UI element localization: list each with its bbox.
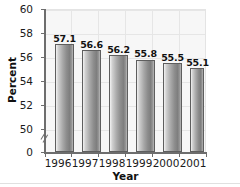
y-axis-title: Percent	[6, 40, 18, 120]
bar-value-label-1999: 55.8	[131, 48, 160, 59]
y-tick-mark-60	[41, 9, 45, 10]
x-tick-label-1998: 1998	[98, 157, 126, 169]
bar-1999	[136, 60, 155, 152]
bar-2000	[163, 63, 182, 152]
bar-value-label-1998: 56.2	[104, 44, 133, 55]
x-tick-label-1999: 1999	[125, 157, 153, 169]
bar-chart-figure: 60 58 56 54 52 50 0 57.1 56.6 56.2 55.8 …	[0, 0, 240, 187]
axis-break-icon	[39, 130, 51, 144]
x-tick-label-1996: 1996	[44, 157, 72, 169]
x-tick-label-1997: 1997	[71, 157, 99, 169]
y-tick-label-58: 58	[0, 28, 33, 38]
bar-2001	[190, 68, 204, 152]
bar-1998	[109, 55, 128, 152]
y-tick-label-50: 50	[0, 124, 33, 134]
y-tick-label-0: 0	[0, 147, 33, 157]
x-axis-title: Year	[45, 170, 206, 182]
y-tick-mark-50	[41, 129, 45, 130]
bar-value-label-2001: 55.1	[183, 57, 212, 68]
bar-1997	[82, 50, 101, 152]
y-tick-label-60: 60	[0, 4, 33, 14]
bar-value-label-1996: 57.1	[50, 33, 79, 44]
bottom-divider	[0, 183, 240, 184]
x-tick-label-2001: 2001	[179, 157, 207, 169]
y-tick-mark-54	[41, 81, 45, 82]
bar-value-label-1997: 56.6	[77, 39, 106, 50]
x-tick-label-2000: 2000	[152, 157, 180, 169]
y-tick-mark-52	[41, 105, 45, 106]
bar-1996	[55, 44, 74, 152]
y-tick-mark-58	[41, 33, 45, 34]
y-tick-mark-56	[41, 57, 45, 58]
